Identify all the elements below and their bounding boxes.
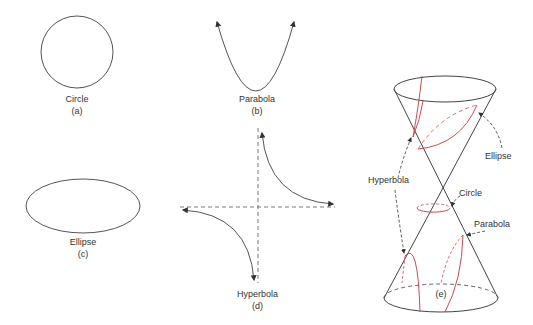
parabola-caption: Parabola xyxy=(232,94,282,104)
parabola-shape xyxy=(217,22,294,91)
hyperbola-tag: (d) xyxy=(230,301,285,311)
conic-sections-figure xyxy=(0,0,533,325)
cone-label-circle: Circle xyxy=(459,188,482,198)
cone-label-hyperbola: Hyperbola xyxy=(368,175,409,185)
hyperbola-caption: Hyperbola xyxy=(230,289,285,299)
circle-tag: (a) xyxy=(57,106,97,116)
double-cone xyxy=(384,76,502,312)
cone-label-parabola: Parabola xyxy=(474,219,510,229)
hyperbola-leader-up xyxy=(398,138,411,178)
ellipse-tag: (c) xyxy=(58,249,108,259)
ellipse-shape xyxy=(26,179,140,233)
ellipse-leader xyxy=(479,113,502,148)
parabola-leader xyxy=(467,231,485,235)
cone-tag: (e) xyxy=(421,289,461,299)
cone-label-ellipse: Ellipse xyxy=(485,151,512,161)
hyperbola-branch-lower xyxy=(183,210,254,280)
circle-shape xyxy=(41,16,113,88)
circle-caption: Circle xyxy=(57,94,97,104)
hyperbola-leader-down xyxy=(395,190,404,253)
hyperbola-branch-upper xyxy=(262,133,333,204)
parabola-tag: (b) xyxy=(232,106,282,116)
ellipse-caption: Ellipse xyxy=(58,237,108,247)
